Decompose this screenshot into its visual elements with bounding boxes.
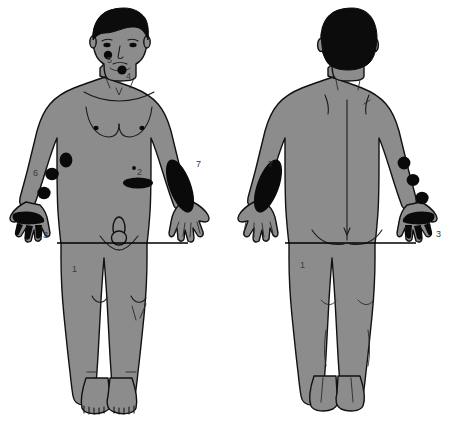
posterior-hair bbox=[322, 8, 378, 70]
label-posterior-3: 3 bbox=[436, 229, 441, 239]
anterior-foot-right bbox=[107, 378, 137, 414]
anterior-nipple-left bbox=[93, 126, 98, 130]
anterior-foot-left bbox=[81, 378, 111, 414]
lesion-diagram: 6 3 5 4 2 7 1 bbox=[0, 0, 475, 430]
label-anterior-1: 1 bbox=[72, 264, 77, 274]
label-anterior-2: 2 bbox=[137, 167, 142, 177]
lesion-anterior-abdomen bbox=[123, 178, 153, 189]
anterior-eye-left bbox=[103, 43, 110, 47]
anterior-nipple-right bbox=[139, 126, 144, 130]
label-anterior-7: 7 bbox=[196, 159, 201, 169]
anterior-figure: 6 3 5 4 2 7 1 bbox=[10, 8, 209, 414]
label-posterior-1: 1 bbox=[300, 260, 305, 270]
posterior-foot-left bbox=[310, 376, 338, 411]
label-anterior-5: 5 bbox=[107, 55, 112, 65]
anterior-navel bbox=[132, 166, 136, 170]
label-anterior-6: 6 bbox=[33, 168, 38, 178]
posterior-figure: 7 3 1 bbox=[238, 8, 441, 411]
label-posterior-7: 7 bbox=[268, 159, 273, 169]
posterior-foot-right bbox=[336, 376, 364, 411]
label-anterior-4: 4 bbox=[126, 71, 131, 81]
label-anterior-3: 3 bbox=[43, 230, 48, 240]
anterior-eye-right bbox=[129, 43, 136, 47]
